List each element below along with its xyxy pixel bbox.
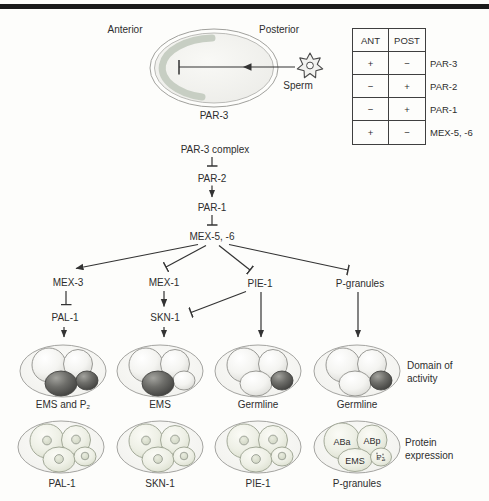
table-header-ant: ANT — [353, 29, 389, 52]
expression-label-0: PAL-1 — [48, 478, 75, 489]
domain-caption-line2: activity — [407, 373, 453, 386]
embryo-domain-ems — [117, 345, 203, 397]
embryo-domain-germline-1 — [215, 345, 301, 397]
table-header-post: POST — [389, 29, 425, 52]
sperm-label: Sperm — [283, 80, 312, 91]
cascade-connectors — [64, 157, 358, 337]
one-cell-egg — [150, 29, 323, 107]
table-cell-par1-ant: − — [353, 98, 389, 121]
embryo-domain-ems-p2 — [20, 345, 106, 397]
node-mex1: MEX-1 — [149, 277, 180, 288]
table-cell-par2-ant: − — [353, 75, 389, 98]
expression-caption: Protein expression — [405, 437, 453, 462]
expression-label-3: P-granules — [333, 478, 381, 489]
table-row-label-par1: PAR-1 — [430, 104, 457, 116]
node-mex56: MEX-5, -6 — [189, 231, 234, 242]
expression-caption-line1: Protein — [405, 437, 453, 450]
egg-par3-label: PAR-3 — [200, 110, 229, 121]
domain-label-3: Germline — [337, 399, 378, 410]
node-mex3: MEX-3 — [53, 277, 84, 288]
cell-label-p2: P₂ — [376, 453, 384, 462]
table-cell-par3-post: − — [389, 52, 425, 75]
node-pal1: PAL-1 — [51, 312, 78, 323]
domain-label-2: Germline — [238, 399, 279, 410]
sperm-icon — [297, 53, 322, 78]
cell-label-aba: ABa — [333, 437, 350, 447]
node-par1: PAR-1 — [198, 202, 227, 213]
table-cell-mex56-ant: + — [353, 121, 389, 144]
embryo-expression-pie1 — [215, 421, 301, 473]
node-skn1: SKN-1 — [150, 312, 179, 323]
table-row-label-mex56: MEX-5, -6 — [430, 127, 473, 139]
node-pgranules: P-granules — [336, 278, 384, 289]
table-cell-par1-post: + — [389, 98, 425, 121]
domain-caption-line1: Domain of — [407, 360, 453, 373]
anterior-label: Anterior — [107, 24, 142, 35]
domain-caption: Domain of activity — [407, 360, 453, 385]
embryo-expression-pgranules: ABa ABp EMS P₂ — [314, 421, 400, 473]
expression-caption-line2: expression — [405, 450, 453, 463]
embryo-expression-skn1 — [117, 421, 203, 473]
figure-page: ABa ABp EMS P₂ Anterior Posterior Sperm … — [0, 0, 489, 501]
table-cell-par3-ant: + — [353, 52, 389, 75]
node-par3-complex: PAR-3 complex — [181, 144, 250, 155]
domain-label-1: EMS — [149, 399, 171, 410]
domain-label-0: EMS and P₂ — [36, 399, 90, 410]
ant-post-table: ANT POST + − − + − + + − — [352, 28, 426, 145]
cell-label-abp: ABp — [363, 436, 380, 446]
node-par2: PAR-2 — [198, 173, 227, 184]
table-row-label-par3: PAR-3 — [430, 58, 457, 70]
expression-label-2: PIE-1 — [245, 478, 270, 489]
embryo-domain-germline-2 — [314, 345, 400, 397]
cell-label-ems: EMS — [345, 456, 365, 466]
table-cell-mex56-post: − — [389, 121, 425, 144]
expression-label-1: SKN-1 — [145, 478, 174, 489]
table-row-label-par2: PAR-2 — [430, 81, 457, 93]
node-pie1: PIE-1 — [247, 278, 272, 289]
posterior-label: Posterior — [259, 24, 299, 35]
table-cell-par2-post: + — [389, 75, 425, 98]
embryo-expression-pal1 — [18, 421, 104, 473]
